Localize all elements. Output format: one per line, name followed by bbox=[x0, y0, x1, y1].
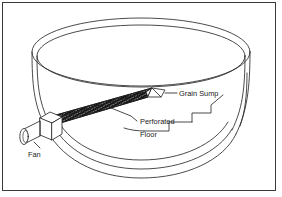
floor-cutaway-step-upper bbox=[192, 95, 223, 122]
bin-top-inner-rim bbox=[37, 25, 245, 87]
diagram-page: Grain Sump Perforated Floor Fan bbox=[0, 0, 282, 197]
label-perforated: Perforated bbox=[140, 117, 175, 126]
label-floor: Floor bbox=[140, 130, 157, 139]
fan-inlet-mouth-inner bbox=[23, 131, 28, 143]
grain-bin-diagram: Grain Sump Perforated Floor Fan bbox=[0, 0, 282, 197]
leader-line-fan bbox=[34, 142, 40, 148]
label-fan: Fan bbox=[28, 150, 41, 159]
duct-front-face bbox=[48, 92, 148, 126]
bin-top-outer-rim bbox=[32, 18, 250, 86]
bin-wall-left-outer bbox=[32, 52, 44, 124]
leader-line-perforated-floor bbox=[111, 108, 137, 121]
bin-wall-right-cut-edge bbox=[240, 73, 247, 126]
label-grain-sump: Grain Sump bbox=[179, 89, 218, 98]
